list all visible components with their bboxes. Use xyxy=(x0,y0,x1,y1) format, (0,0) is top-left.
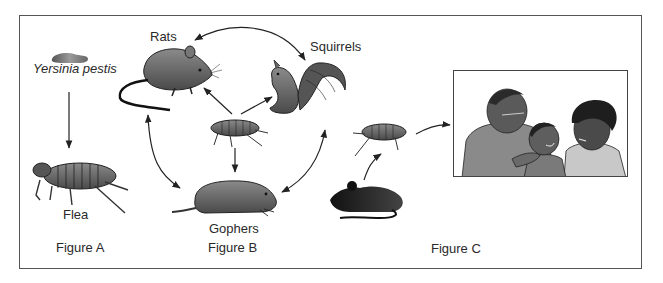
caption-figure-b: Figure B xyxy=(208,241,257,254)
rat-icon xyxy=(120,46,222,110)
family-illustration xyxy=(453,70,628,177)
arrow-flea-to-squirrels xyxy=(241,97,272,114)
arrow-flea-to-humans xyxy=(416,125,450,134)
arrow-squirrels-gophers xyxy=(282,130,325,192)
caption-figure-a: Figure A xyxy=(56,241,104,254)
flea-icon xyxy=(353,124,406,156)
arrow-rodent-to-flea xyxy=(364,154,381,180)
label-gophers: Gophers xyxy=(209,222,259,235)
flea-icon xyxy=(33,163,128,213)
arrow-rats-gophers xyxy=(148,115,180,188)
label-rats: Rats xyxy=(150,30,177,43)
label-squirrels: Squirrels xyxy=(310,40,361,53)
rodent-silhouette-icon xyxy=(330,181,403,218)
gopher-icon xyxy=(172,181,276,216)
squirrel-icon xyxy=(270,60,345,113)
arrow-rats-squirrels xyxy=(195,27,305,60)
flea-icon xyxy=(211,120,268,147)
label-yersinia-pestis: Yersinia pestis xyxy=(33,62,117,75)
caption-figure-c: Figure C xyxy=(431,242,481,255)
arrow-flea-to-rats xyxy=(204,88,232,114)
label-flea: Flea xyxy=(63,208,88,221)
